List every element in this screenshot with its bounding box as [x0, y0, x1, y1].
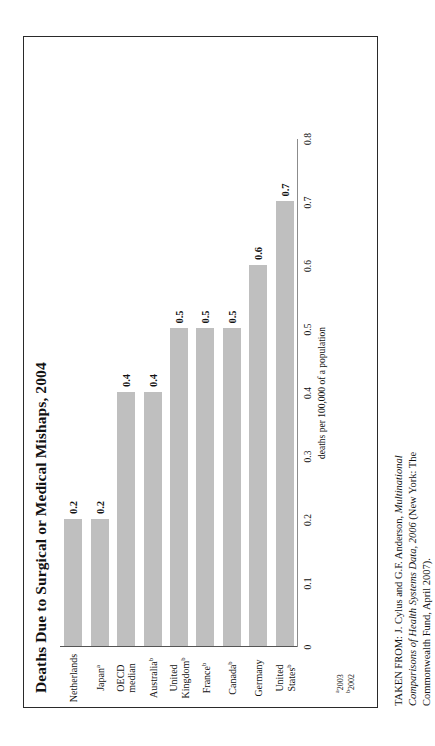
category-label: Canadab — [226, 651, 239, 705]
value-axis-line — [60, 646, 298, 647]
bar-value-label: 0.4 — [121, 374, 132, 387]
bar — [276, 202, 294, 647]
figure-container: Deaths Due to Surgical or Medical Mishap… — [23, 36, 378, 708]
bar-value-label: 0.4 — [147, 374, 158, 387]
axis-tick-label: 0.4 — [303, 387, 313, 399]
bar-row: 0.5 — [196, 138, 214, 646]
bar-value-label: 0.2 — [94, 501, 105, 514]
category-label: UnitedStatesb — [274, 651, 298, 705]
category-label: Germany — [253, 651, 264, 705]
axis-tick-label: 0.1 — [303, 578, 313, 590]
bar — [249, 265, 267, 646]
chart-title: Deaths Due to Surgical or Medical Mishap… — [32, 362, 50, 693]
category-label: Japana — [94, 651, 107, 705]
bar-row: 0.4 — [117, 138, 135, 646]
bar — [91, 519, 109, 646]
value-axis-title: deaths per 100,000 of a population — [317, 139, 327, 647]
axis-tick-label: 0 — [303, 645, 313, 650]
plot-area: 0.70.60.50.50.50.40.40.20.2 — [60, 139, 298, 647]
category-label: OECDmedian — [115, 651, 137, 705]
bar-row: 0.4 — [144, 138, 162, 646]
bar — [64, 519, 82, 646]
bar — [196, 329, 214, 647]
bar-row: 0.6 — [249, 138, 267, 646]
bar — [117, 392, 135, 646]
bar-value-label: 0.5 — [200, 310, 211, 323]
bar-value-label: 0.5 — [226, 310, 237, 323]
bar-row: 0.7 — [276, 138, 294, 646]
bar — [144, 392, 162, 646]
axis-tick-label: 0.2 — [303, 514, 313, 526]
bar — [170, 329, 188, 647]
bar-row: 0.5 — [170, 138, 188, 646]
figure-footnotes: a2003b2002 — [334, 674, 357, 693]
bar-row: 0.2 — [64, 138, 82, 646]
category-label: Australiab — [147, 651, 160, 705]
bar — [223, 329, 241, 647]
axis-tick-label: 0.7 — [303, 197, 313, 209]
footnote-item: a2003 — [334, 674, 345, 693]
axis-tick-label: 0.8 — [303, 133, 313, 145]
axis-tick-label: 0.6 — [303, 260, 313, 272]
bar-row: 0.5 — [223, 138, 241, 646]
bar-value-label: 0.6 — [253, 247, 264, 260]
source-prefix: TAKEN FROM: J. Cylus and G.F. Anderson, — [393, 513, 404, 706]
category-label: Netherlands — [68, 651, 79, 705]
bar-value-label: 0.2 — [68, 501, 79, 514]
footnote-item: b2002 — [345, 674, 356, 693]
category-axis-line — [297, 139, 298, 647]
bar-value-label: 0.5 — [174, 310, 185, 323]
source-caption: TAKEN FROM: J. Cylus and G.F. Anderson, … — [392, 406, 435, 706]
category-label: UnitedKingdomb — [168, 651, 192, 705]
bar-value-label: 0.7 — [279, 183, 290, 196]
bar-row: 0.2 — [91, 138, 109, 646]
axis-tick-label: 0.3 — [303, 451, 313, 463]
axis-tick-label: 0.5 — [303, 324, 313, 336]
category-label: Franceb — [200, 651, 213, 705]
